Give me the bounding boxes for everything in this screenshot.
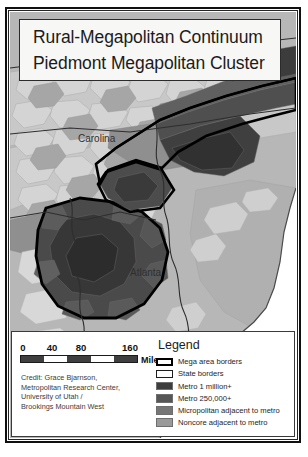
scale-tick-0: 0 <box>20 342 25 353</box>
legend-label-state-borders: State borders <box>178 369 224 378</box>
scale-bar-block: 0 40 80 160 Miles <box>20 342 148 363</box>
place-label-carolina: Carolina <box>78 133 115 144</box>
legend-label-metro-250000: Metro 250,000+ <box>178 394 231 403</box>
legend-item-mega-area-borders: Mega area borders <box>156 356 292 368</box>
scale-seg-1 <box>21 356 44 362</box>
legend-item-state-borders: State borders <box>156 368 292 380</box>
credit-line-3: University of Utah / <box>21 392 141 402</box>
credit-line-4: Brookings Mountain West <box>21 402 141 412</box>
legend-swatch-state-borders <box>156 370 173 379</box>
scale-seg-5 <box>114 356 137 362</box>
scale-bar-graphic: Miles <box>20 355 138 363</box>
legend-swatch-micropolitan-adjacent <box>156 406 173 415</box>
map-info-panel: 0 40 80 160 Miles Credit: Grace Bjarnson… <box>11 331 295 437</box>
legend-label-mega-area-borders: Mega area borders <box>178 357 242 366</box>
scale-seg-4 <box>91 356 114 362</box>
map-subtitle-line-2: Piedmont Megapolitan Cluster <box>33 50 280 76</box>
legend-swatch-mega-area-borders <box>156 358 173 367</box>
map-figure: Carolina Atlanta Rural-Megapolitan Conti… <box>0 0 308 457</box>
legend-title: Legend <box>158 338 292 352</box>
legend-swatch-metro-1-million <box>156 382 173 391</box>
credit-block: Credit: Grace Bjarnson, Metropolitan Res… <box>21 373 141 411</box>
scale-seg-3 <box>67 356 90 362</box>
legend-label-noncore-adjacent: Noncore adjacent to metro <box>178 418 268 427</box>
legend-item-micropolitan-adjacent: Micropolitan adjacent to metro <box>156 405 292 417</box>
legend-item-noncore-adjacent: Noncore adjacent to metro <box>156 417 292 429</box>
legend-item-metro-1-million: Metro 1 million+ <box>156 380 292 392</box>
title-panel: Rural-Megapolitan Continuum Piedmont Meg… <box>19 19 281 81</box>
credit-line-2: Metropolitan Research Center, <box>21 383 141 393</box>
credit-line-1: Credit: Grace Bjarnson, <box>21 373 141 383</box>
place-label-atlanta: Atlanta <box>130 267 161 278</box>
scale-tick-40: 40 <box>47 342 58 353</box>
legend-label-micropolitan-adjacent: Micropolitan adjacent to metro <box>178 406 280 415</box>
legend: Legend Mega area borders State borders M… <box>156 338 292 429</box>
legend-swatch-noncore-adjacent <box>156 418 173 427</box>
scale-bar-ticks: 0 40 80 160 <box>20 342 148 355</box>
scale-tick-160: 160 <box>122 342 138 353</box>
legend-item-metro-250000: Metro 250,000+ <box>156 393 292 405</box>
map-title-line-1: Rural-Megapolitan Continuum <box>33 24 280 50</box>
scale-tick-80: 80 <box>76 342 87 353</box>
legend-swatch-metro-250000 <box>156 394 173 403</box>
legend-label-metro-1-million: Metro 1 million+ <box>178 382 232 391</box>
scale-seg-2 <box>44 356 67 362</box>
